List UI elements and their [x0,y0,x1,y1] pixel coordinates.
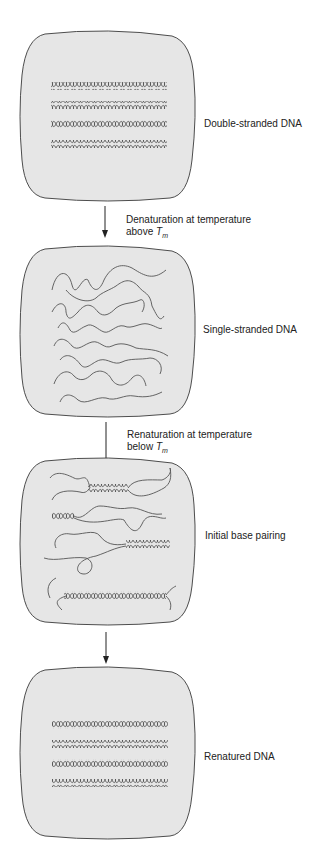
label-initial-pairing: Initial base pairing [205,530,286,542]
step-renaturation-line2: below Tm [127,441,252,457]
label-single-stranded: Single-stranded DNA [203,324,297,336]
diagram: Double-stranded DNA Single-stranded DNA … [0,0,310,866]
panel-single-stranded [20,246,195,417]
tm-subscript: m [162,232,168,239]
tm-subscript: m [162,447,168,454]
step-denaturation-label: Denaturation at temperature above Tm [126,214,251,242]
arrow-completion [103,632,109,664]
step-denaturation-line2: above Tm [126,226,251,242]
panel-double-stranded [20,31,195,201]
label-double-stranded: Double-stranded DNA [204,118,302,130]
panel-initial-pairing [20,458,195,625]
panel-renatured [20,667,195,839]
label-renatured: Renatured DNA [204,751,275,763]
step-renaturation-label: Renaturation at temperature below Tm [127,429,252,457]
step-renaturation-line1: Renaturation at temperature [127,429,252,441]
step-denaturation-line1: Denaturation at temperature [126,214,251,226]
arrow-denaturation [102,206,108,238]
